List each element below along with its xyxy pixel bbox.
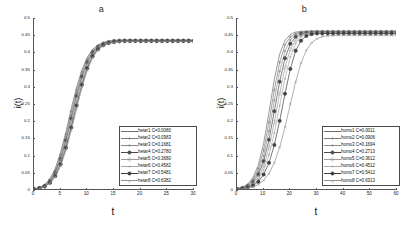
legend-label: homo6 C=0.4512 xyxy=(341,163,375,169)
x-tick-mark xyxy=(369,188,370,190)
y-tick-mark xyxy=(236,87,238,88)
x-tick-mark xyxy=(193,188,194,190)
y-tick-label: 0.35 xyxy=(203,67,233,71)
x-tick-mark xyxy=(33,188,34,190)
panel-a-legend: hetar1 C=0.0080hetar2 C=0.0983hetar3 C=0… xyxy=(119,126,197,186)
legend-row: homo8 C=0.6313 xyxy=(324,178,398,184)
legend-sample-hetar5 xyxy=(121,156,138,162)
y-tick-label: 0.45 xyxy=(203,33,233,37)
x-tick-mark xyxy=(236,188,237,190)
legend-sample-hetar8 xyxy=(121,178,138,184)
legend-sample-hetar1 xyxy=(121,128,138,134)
legend-label: hetar5 C=0.3680 xyxy=(138,156,171,162)
y-tick-label: 0.4 xyxy=(0,50,30,54)
y-tick-mark xyxy=(236,121,238,122)
y-tick-mark xyxy=(236,138,238,139)
legend-row: homo1 C=0.0011 xyxy=(324,128,398,134)
legend-row: hetar8 C=0.6382 xyxy=(121,178,195,184)
legend-row: hetar5 C=0.3680 xyxy=(121,156,195,162)
x-tick-label: 20 xyxy=(287,192,292,197)
panel-a-y-axis-label: i(t) xyxy=(13,83,23,123)
y-tick-mark xyxy=(236,173,238,174)
x-tick-label: 15 xyxy=(110,192,115,197)
legend-label: hetar2 C=0.0983 xyxy=(138,135,171,141)
y-tick-label: 0.45 xyxy=(0,33,30,37)
legend-row: homo5 C=0.3612 xyxy=(324,156,398,162)
legend-label: hetar7 C=0.5481 xyxy=(138,170,171,176)
y-tick-mark xyxy=(33,138,35,139)
x-tick-mark xyxy=(140,188,141,190)
legend-row: hetar3 C=0.1681 xyxy=(121,142,195,148)
legend-sample-hetar2 xyxy=(121,135,138,141)
y-tick-label: 0.5 xyxy=(203,16,233,20)
x-tick-label: 20 xyxy=(137,192,142,197)
legend-sample-homo7 xyxy=(324,170,341,176)
y-tick-label: 0.35 xyxy=(0,67,30,71)
y-tick-mark xyxy=(33,121,35,122)
legend-row: homo3 C=0.1694 xyxy=(324,142,398,148)
legend-sample-homo3 xyxy=(324,142,341,148)
legend-label: homo5 C=0.3612 xyxy=(341,156,375,162)
y-tick-mark xyxy=(33,52,35,53)
panel-b-y-axis-label: i(t) xyxy=(216,83,226,123)
y-tick-label: 0.1 xyxy=(203,153,233,157)
y-tick-mark xyxy=(236,52,238,53)
x-tick-mark xyxy=(343,188,344,190)
legend-sample-hetar7 xyxy=(121,170,138,176)
y-tick-label: 0 xyxy=(203,188,233,192)
y-tick-mark xyxy=(236,156,238,157)
legend-sample-hetar4 xyxy=(121,149,138,155)
panel-b-title: b xyxy=(203,4,406,14)
y-tick-mark xyxy=(33,104,35,105)
legend-sample-hetar3 xyxy=(121,142,138,148)
legend-sample-homo4 xyxy=(324,149,341,155)
x-tick-label: 10 xyxy=(84,192,89,197)
y-tick-mark xyxy=(33,70,35,71)
legend-sample-homo8 xyxy=(324,178,341,184)
x-tick-label: 50 xyxy=(367,192,372,197)
legend-label: homo1 C=0.0011 xyxy=(341,128,375,134)
y-tick-mark xyxy=(33,156,35,157)
y-tick-mark xyxy=(236,18,238,19)
x-tick-mark xyxy=(113,188,114,190)
y-tick-label: 0.05 xyxy=(0,171,30,175)
panel-b: b 00.050.10.150.20.250.30.350.40.450.5 0… xyxy=(203,0,406,233)
legend-sample-hetar6 xyxy=(121,163,138,169)
legend-sample-homo1 xyxy=(324,128,341,134)
legend-label: hetar1 C=0.0080 xyxy=(138,128,171,134)
legend-sample-homo6 xyxy=(324,163,341,169)
y-tick-label: 0.05 xyxy=(203,171,233,175)
y-tick-label: 0 xyxy=(0,188,30,192)
x-tick-mark xyxy=(86,188,87,190)
x-tick-mark xyxy=(60,188,61,190)
x-tick-label: 30 xyxy=(190,192,195,197)
legend-label: homo8 C=0.6313 xyxy=(341,178,375,184)
y-tick-mark xyxy=(236,104,238,105)
x-tick-mark xyxy=(263,188,264,190)
y-tick-label: 0.15 xyxy=(203,136,233,140)
x-tick-label: 60 xyxy=(393,192,398,197)
x-tick-mark xyxy=(396,188,397,190)
x-tick-label: 10 xyxy=(260,192,265,197)
x-tick-mark xyxy=(166,188,167,190)
y-tick-label: 0.5 xyxy=(0,16,30,20)
legend-label: homo4 C=0.2713 xyxy=(341,149,375,155)
legend-sample-homo5 xyxy=(324,156,341,162)
y-tick-mark xyxy=(33,87,35,88)
legend-row: hetar4 C=0.2780 xyxy=(121,149,195,155)
panel-a-title: a xyxy=(0,4,203,14)
x-tick-label: 40 xyxy=(340,192,345,197)
y-tick-mark xyxy=(33,18,35,19)
panel-a: a 00.050.10.150.20.250.30.350.40.450.5 0… xyxy=(0,0,203,233)
legend-row: hetar1 C=0.0080 xyxy=(121,128,195,134)
legend-label: homo2 C=0.0906 xyxy=(341,135,375,141)
legend-row: hetar7 C=0.5481 xyxy=(121,170,195,176)
legend-label: hetar6 C=0.4582 xyxy=(138,163,171,169)
legend-row: homo6 C=0.4512 xyxy=(324,163,398,169)
x-tick-label: 5 xyxy=(58,192,61,197)
legend-label: hetar8 C=0.6382 xyxy=(138,178,171,184)
legend-row: hetar2 C=0.0983 xyxy=(121,135,195,141)
legend-row: homo7 C=0.5412 xyxy=(324,170,398,176)
legend-label: homo3 C=0.1694 xyxy=(341,142,375,148)
panel-b-legend: homo1 C=0.0011homo2 C=0.0906homo3 C=0.16… xyxy=(322,126,400,186)
